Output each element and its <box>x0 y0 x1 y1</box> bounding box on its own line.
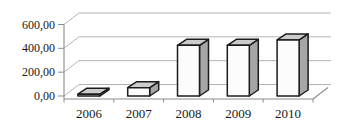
chart-canvas: 0,00200,00400,00600,00200620072008200920… <box>0 0 341 128</box>
gridline-diagonal-0 <box>64 85 79 97</box>
bar-2008 <box>178 39 209 96</box>
gridline-diagonal-400 <box>64 37 79 49</box>
bar-2010 <box>277 34 308 96</box>
bar-2007 <box>128 82 159 96</box>
x-category-label-2007: 2007 <box>126 106 153 121</box>
bar-front-face <box>78 94 100 96</box>
x-category-label-2010: 2010 <box>275 106 301 121</box>
y-tick-label-600: 600,00 <box>22 18 55 32</box>
floor-right-edge <box>313 88 328 100</box>
y-tick-label-200: 200,00 <box>22 65 55 79</box>
bar-front-face <box>128 88 150 96</box>
x-category-label-2009: 2009 <box>225 106 251 121</box>
y-tick-label-0: 0,00 <box>34 89 55 103</box>
x-category-label-2008: 2008 <box>176 106 202 121</box>
gridline-diagonal-600 <box>64 13 79 25</box>
bar-chart-3d: 0,00200,00400,00600,00200620072008200920… <box>0 0 341 128</box>
gridline-diagonal-200 <box>64 61 79 72</box>
bar-front-face <box>178 45 200 96</box>
bar-front-face <box>227 45 249 96</box>
bar-front-face <box>277 40 299 96</box>
bar-2006 <box>78 88 109 96</box>
y-tick-label-400: 400,00 <box>22 41 55 55</box>
bar-side-face <box>299 34 308 96</box>
bar-2009 <box>227 39 258 96</box>
bar-side-face <box>249 39 258 96</box>
bar-side-face <box>200 39 209 96</box>
x-category-label-2006: 2006 <box>76 106 103 121</box>
